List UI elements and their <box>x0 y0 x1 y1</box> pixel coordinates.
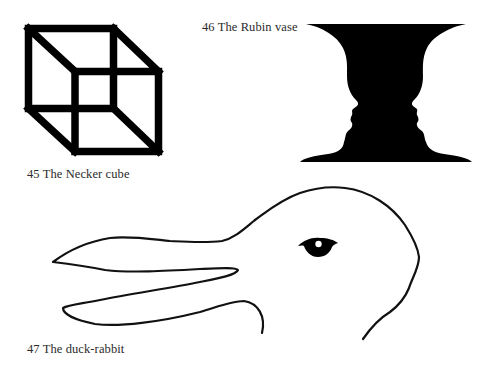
duck-rabbit-figure <box>53 187 419 339</box>
necker-cube-figure <box>29 29 159 152</box>
necker-cube-edge <box>114 29 159 72</box>
illustrations-canvas <box>0 0 493 366</box>
rubin-vase-figure <box>300 24 472 162</box>
eye-icon <box>298 238 338 257</box>
eye-highlight <box>315 241 321 247</box>
necker-cube-edge <box>29 109 76 152</box>
duck-rabbit-eye <box>298 238 338 257</box>
duck-rabbit-head <box>255 187 419 339</box>
duck-rabbit-upper-bill <box>53 220 263 333</box>
caption-rubin-vase: 46 The Rubin vase <box>202 20 298 34</box>
necker-cube-edge <box>114 109 159 152</box>
caption-necker-cube: 45 The Necker cube <box>27 167 130 181</box>
necker-cube-edge <box>29 29 76 72</box>
caption-duck-rabbit: 47 The duck-rabbit <box>27 342 124 356</box>
